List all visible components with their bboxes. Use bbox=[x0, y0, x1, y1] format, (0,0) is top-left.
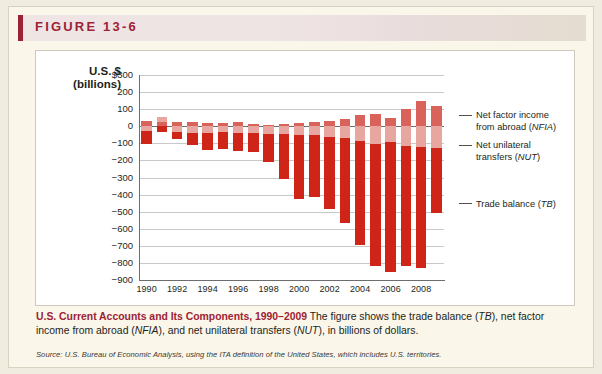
bar-segment-nfia bbox=[401, 109, 412, 126]
figure-page: FIGURE 13-6 U.S. $ (billions) $300200100… bbox=[8, 6, 594, 368]
bar-segment-nut bbox=[370, 126, 381, 144]
y-tick-label: −700 bbox=[89, 240, 133, 251]
bar-segment-tb bbox=[141, 131, 152, 145]
y-tick-label: −600 bbox=[89, 223, 133, 234]
x-tick-label: 2000 bbox=[282, 284, 316, 294]
x-tick-label: 2004 bbox=[343, 284, 377, 294]
bar-group bbox=[172, 75, 183, 280]
bar-group bbox=[370, 75, 381, 280]
caption-body-1: The figure shows the trade balance ( bbox=[307, 311, 478, 322]
figure-source-line: Source: U.S. Bureau of Economic Analysis… bbox=[36, 350, 581, 359]
bar-segment-nfia bbox=[294, 123, 305, 126]
bar-segment-nut bbox=[340, 126, 351, 138]
bar-segment-nfia bbox=[370, 114, 381, 126]
x-tick-label: 2002 bbox=[313, 284, 347, 294]
x-tick-label: 1996 bbox=[221, 284, 255, 294]
bar-series-layer bbox=[139, 75, 444, 280]
bar-segment-tb bbox=[355, 141, 366, 245]
bar-segment-nfia bbox=[324, 121, 335, 126]
bar-group bbox=[187, 75, 198, 280]
caption-body-3: ), and net unilateral transfers ( bbox=[158, 325, 297, 336]
bar-segment-nfia bbox=[279, 124, 290, 126]
legend-item-nfia: Net factor incomefrom abroad (NFIA) bbox=[476, 110, 556, 133]
legend-label-line1: Net unilateral bbox=[476, 140, 540, 152]
bar-segment-tb bbox=[340, 138, 351, 222]
bar-segment-nfia bbox=[355, 115, 366, 127]
bar-group bbox=[340, 75, 351, 280]
legend-label-line2: from abroad (NFIA) bbox=[476, 122, 556, 134]
bar-segment-nut bbox=[248, 126, 259, 133]
bar-segment-nut bbox=[157, 117, 168, 122]
bar-group bbox=[401, 75, 412, 280]
bar-segment-tb bbox=[416, 147, 427, 268]
bar-group bbox=[263, 75, 274, 280]
bar-segment-tb bbox=[202, 133, 213, 150]
bar-segment-tb bbox=[324, 137, 335, 208]
figure-number-label: FIGURE 13-6 bbox=[35, 19, 138, 34]
figure-header-accent-bar bbox=[18, 15, 23, 41]
bar-group bbox=[416, 75, 427, 280]
bar-segment-nut bbox=[416, 126, 427, 147]
bar-group bbox=[431, 75, 442, 280]
bar-group bbox=[248, 75, 259, 280]
bar-segment-nfia bbox=[431, 106, 442, 127]
bar-segment-tb bbox=[172, 132, 183, 139]
bar-segment-tb bbox=[370, 144, 381, 266]
y-tick-label: −400 bbox=[89, 189, 133, 200]
bar-segment-tb bbox=[157, 126, 168, 131]
bar-segment-nut bbox=[431, 126, 442, 147]
bar-segment-nfia bbox=[202, 123, 213, 126]
bar-group bbox=[355, 75, 366, 280]
figure-caption: U.S. Current Accounts and Its Components… bbox=[36, 310, 576, 337]
bar-segment-nfia bbox=[157, 122, 168, 126]
bar-segment-nut bbox=[401, 126, 412, 146]
caption-abbr-nut: NUT bbox=[297, 325, 318, 336]
bar-segment-nut bbox=[385, 126, 396, 142]
bar-segment-nfia bbox=[340, 119, 351, 127]
legend-label-line1: Trade balance (TB) bbox=[476, 199, 556, 211]
bar-segment-nut bbox=[233, 126, 244, 133]
bar-segment-nfia bbox=[385, 118, 396, 126]
caption-abbr-tb: TB bbox=[478, 311, 491, 322]
bar-segment-nut bbox=[309, 126, 320, 135]
bar-segment-tb bbox=[233, 133, 244, 151]
bar-segment-tb bbox=[309, 135, 320, 197]
bar-group bbox=[309, 75, 320, 280]
bar-segment-tb bbox=[385, 142, 396, 272]
y-tick-label: 0 bbox=[89, 120, 133, 131]
bar-segment-nfia bbox=[309, 122, 320, 126]
y-tick-label: −200 bbox=[89, 154, 133, 165]
bar-group bbox=[385, 75, 396, 280]
bar-segment-tb bbox=[279, 134, 290, 178]
legend-label-line1: Net factor income bbox=[476, 110, 556, 122]
bar-segment-nut bbox=[202, 126, 213, 133]
x-tick-label: 1998 bbox=[252, 284, 286, 294]
bar-segment-nut bbox=[355, 126, 366, 141]
figure-outer-frame: FIGURE 13-6 U.S. $ (billions) $300200100… bbox=[0, 0, 602, 374]
y-tick-label: $300 bbox=[89, 69, 133, 80]
bar-segment-nut bbox=[263, 126, 274, 134]
legend-item-nut: Net unilateraltransfers (NUT) bbox=[476, 140, 540, 163]
bar-segment-nfia bbox=[233, 122, 244, 126]
legend-leader-nfia bbox=[459, 115, 472, 116]
bar-group bbox=[202, 75, 213, 280]
y-tick-label: −500 bbox=[89, 206, 133, 217]
bar-segment-tb bbox=[294, 135, 305, 199]
bar-segment-nfia bbox=[263, 125, 274, 127]
y-tick-label: −100 bbox=[89, 137, 133, 148]
legend-leader-tb bbox=[459, 203, 472, 204]
legend-leader-nut bbox=[459, 145, 472, 146]
x-tick-label: 1990 bbox=[130, 284, 164, 294]
bar-segment-nfia bbox=[141, 121, 152, 126]
bar-group bbox=[157, 75, 168, 280]
bar-segment-nfia bbox=[172, 122, 183, 126]
bar-segment-tb bbox=[248, 133, 259, 151]
bar-segment-nfia bbox=[248, 124, 259, 126]
bar-segment-tb bbox=[263, 134, 274, 162]
x-tick-label: 2006 bbox=[374, 284, 408, 294]
bar-segment-tb bbox=[187, 133, 198, 145]
bar-segment-nut bbox=[279, 126, 290, 134]
bar-segment-tb bbox=[401, 146, 412, 266]
bar-segment-nfia bbox=[187, 122, 198, 126]
bar-group bbox=[279, 75, 290, 280]
